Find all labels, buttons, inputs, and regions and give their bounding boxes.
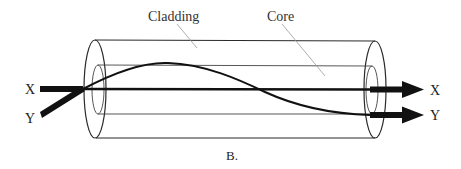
figure-caption: B. xyxy=(226,148,238,163)
cladding-label: Cladding xyxy=(148,9,199,24)
x-ray-path xyxy=(83,89,372,90)
input-y-label: Y xyxy=(25,111,35,126)
cladding-leader-line xyxy=(177,24,197,48)
cladding-top-edge xyxy=(95,40,375,41)
input-x-label: X xyxy=(25,82,35,97)
output-y-arrow xyxy=(370,107,424,124)
core-leader-line xyxy=(282,24,325,76)
optical-fiber-diagram: Cladding Core X Y X Y B. xyxy=(0,0,461,169)
core-label: Core xyxy=(267,9,294,24)
output-y-label: Y xyxy=(430,108,440,123)
output-x-label: X xyxy=(430,83,440,98)
